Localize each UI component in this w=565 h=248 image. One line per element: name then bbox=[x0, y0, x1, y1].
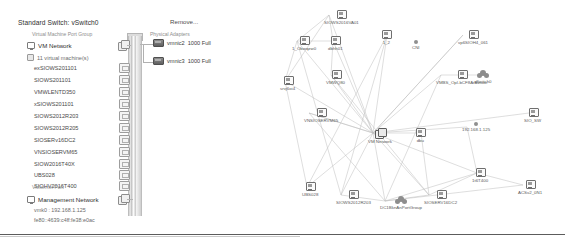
map-node[interactable]: VMWQ80 bbox=[326, 70, 345, 85]
map-node[interactable]: vSwitch0 bbox=[474, 70, 492, 84]
map-node-label: dbhh01 bbox=[328, 46, 343, 51]
port-group-icon bbox=[375, 128, 385, 138]
map-node-label: vp6SIOH4_061 bbox=[458, 40, 488, 45]
nic-icon bbox=[153, 57, 164, 65]
map-node[interactable]: dbhh01 bbox=[328, 36, 343, 51]
map-node-label: dbu bbox=[417, 138, 424, 143]
virtual-machine-icon bbox=[458, 70, 466, 79]
map-marker-icon bbox=[414, 40, 418, 44]
standard-switch-panel: Standard Switch: vSwitch0 Remove... Virt… bbox=[0, 0, 280, 232]
map-node-label: SIOWS2016VA01 bbox=[324, 20, 359, 25]
map-node[interactable]: SIOSERV16DC2 bbox=[424, 190, 457, 205]
virtual-machine-icon bbox=[469, 30, 477, 39]
map-node[interactable]: VM Network bbox=[368, 128, 392, 144]
map-node[interactable]: VNSIOSERVM65 bbox=[304, 108, 338, 123]
map-node[interactable]: vp6SIOH4_061 bbox=[458, 30, 488, 45]
map-node[interactable]: 1t6T400 bbox=[472, 168, 488, 183]
virtual-machine-icon bbox=[526, 180, 534, 189]
vm-node-icon bbox=[119, 147, 128, 155]
virtual-machine-icon bbox=[437, 190, 445, 199]
map-marker-icon bbox=[474, 122, 478, 126]
vmkernel-label: Management Network bbox=[38, 196, 99, 203]
vm-list-item[interactable]: SIOWS2012R205 bbox=[34, 125, 78, 131]
vm-node-icon bbox=[119, 111, 128, 119]
vm-list-item[interactable]: xSIOWS201101 bbox=[34, 101, 74, 107]
map-node[interactable]: dbu bbox=[416, 128, 424, 143]
vm-list-item[interactable]: VNSIOSERVM65 bbox=[34, 149, 77, 155]
physical-adapter-row[interactable]: vmnic2 1000 Full bbox=[153, 39, 211, 47]
map-node[interactable]: SIOWS2012R203 bbox=[336, 190, 371, 205]
map-edge bbox=[285, 81, 307, 187]
map-node-label: DC1BknAnPortGroup bbox=[380, 205, 422, 210]
map-node[interactable]: SIO_SW bbox=[524, 108, 541, 123]
adapter-speed: 1000 Full bbox=[188, 40, 211, 46]
map-edge bbox=[373, 35, 387, 133]
map-edge bbox=[385, 75, 441, 201]
virtual-machine-icon bbox=[476, 168, 484, 177]
adapter-name: vmnic3 bbox=[167, 58, 185, 64]
vmkernel-port-caption: VMkernel Port bbox=[32, 184, 64, 190]
virtual-machine-icon bbox=[300, 36, 308, 45]
physical-adapters-caption: Physical Adapters bbox=[150, 31, 190, 37]
footer-divider-secondary bbox=[0, 236, 300, 237]
map-edge bbox=[307, 133, 373, 187]
vm-node-icon bbox=[119, 63, 128, 71]
network-cloud-icon bbox=[395, 196, 407, 204]
vm-node-icon bbox=[119, 75, 128, 83]
adapter-bracket bbox=[143, 44, 144, 62]
vm-list-item[interactable]: VMWLENTD350 bbox=[34, 89, 75, 95]
remove-link[interactable]: Remove... bbox=[170, 18, 198, 25]
virtual-machine-icon bbox=[349, 190, 357, 199]
map-node[interactable]: ACSv2_0N1 bbox=[518, 180, 542, 195]
map-node-label: vSwitch0 bbox=[474, 79, 492, 84]
vm-list-item[interactable]: SIOW2016T40X bbox=[34, 161, 75, 167]
map-node-label: ACSv2_0N1 bbox=[518, 190, 542, 195]
map-node-label: VMWQ80 bbox=[326, 80, 345, 85]
vm-list-item[interactable]: exSIOWS201101 bbox=[34, 65, 77, 71]
vm-node-icon bbox=[119, 181, 128, 189]
virtual-machine-icon bbox=[382, 30, 390, 39]
map-edge bbox=[373, 75, 441, 133]
map-node[interactable]: SIOWS2016VA01 bbox=[324, 10, 359, 25]
virtual-machine-icon bbox=[337, 10, 345, 19]
map-edge bbox=[341, 35, 387, 195]
network-map[interactable]: SIOWS2016VA011_Obwqzw0dbhh011_2CNIvp6SIO… bbox=[276, 0, 565, 232]
adapter-connector bbox=[143, 44, 153, 45]
map-node[interactable]: 192.168.1.125 bbox=[462, 122, 490, 132]
vm-list-item[interactable]: UBS028 bbox=[34, 172, 55, 178]
adapter-name: vmnic2 bbox=[167, 40, 185, 46]
vm-node-icon bbox=[119, 123, 128, 131]
map-node[interactable]: srvj6oi4 bbox=[280, 76, 295, 91]
vm-node-icon bbox=[119, 87, 128, 95]
connector-stub bbox=[140, 44, 144, 45]
map-node-label: SIOSERV16DC2 bbox=[424, 200, 457, 205]
port-group-management-network[interactable]: Management Network bbox=[27, 196, 99, 203]
map-node-label: 1_2 bbox=[383, 40, 390, 45]
map-node[interactable]: UBS028 bbox=[302, 182, 318, 197]
footer-divider bbox=[0, 234, 565, 235]
port-group-icon bbox=[27, 42, 35, 49]
vm-group-icon bbox=[27, 54, 34, 61]
virtual-machine-icon bbox=[529, 108, 537, 117]
map-edge bbox=[467, 127, 477, 173]
vm-count-row: 11 virtual machine(s) bbox=[27, 54, 89, 61]
physical-adapter-row[interactable]: vmnic3 1000 Full bbox=[153, 57, 211, 65]
vm-node-icon bbox=[119, 135, 128, 143]
port-group-vm-network[interactable]: VM Network bbox=[27, 42, 72, 49]
map-node[interactable]: DC1BknAnPortGroup bbox=[380, 196, 422, 210]
vmkernel-ipv4: vmk0 : 192.168.1.125 bbox=[34, 207, 86, 213]
connector-stub bbox=[127, 199, 133, 200]
connector-stub bbox=[127, 45, 131, 46]
map-node-label: srvj6oi4 bbox=[280, 86, 295, 91]
map-node-label: 192.168.1.125 bbox=[462, 127, 490, 132]
vm-list-item[interactable]: SIOWS2012R203 bbox=[34, 113, 78, 119]
vm-node-icon bbox=[119, 159, 128, 167]
map-node[interactable]: 1_Obwqzw0 bbox=[292, 36, 316, 51]
networking-view: Standard Switch: vSwitch0 Remove... Virt… bbox=[0, 0, 565, 248]
virtual-machine-icon bbox=[317, 108, 325, 117]
map-node[interactable]: 1_2 bbox=[382, 30, 390, 45]
vm-node-icon bbox=[119, 170, 128, 178]
vm-list-item[interactable]: SIOSERv16DC2 bbox=[34, 137, 75, 143]
vm-list-item[interactable]: SIOWS201101 bbox=[34, 77, 71, 83]
map-node[interactable]: CNI bbox=[412, 40, 420, 50]
